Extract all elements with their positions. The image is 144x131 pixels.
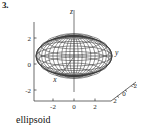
figure-container: 3. bbox=[0, 0, 144, 131]
y-axis-label: y bbox=[114, 48, 119, 57]
y-tick-label-0: 0 bbox=[122, 90, 126, 98]
three-dimensional-plot: z y x 2 0 -2 -2 0 2 2 0 -2 bbox=[0, 8, 144, 112]
z-tick-label-minus-2: -2 bbox=[25, 87, 31, 95]
z-tick-label-2: 2 bbox=[28, 35, 32, 43]
z-axis-label: z bbox=[69, 8, 73, 16]
y-tick-2 bbox=[117, 96, 119, 98]
y-tick-label-2: 2 bbox=[113, 97, 117, 105]
z-tick-label-0: 0 bbox=[28, 61, 32, 69]
plot-area: z y x 2 0 -2 -2 0 2 2 0 -2 bbox=[0, 8, 144, 112]
x-tick-label-0: 0 bbox=[72, 103, 76, 111]
x-tick-label-2: 2 bbox=[93, 103, 97, 111]
y-tick-label-minus-2: -2 bbox=[131, 82, 137, 90]
x-tick-label-minus-2: -2 bbox=[50, 103, 56, 111]
x-axis-label: x bbox=[52, 75, 57, 84]
figure-caption: ellipsoid bbox=[16, 114, 50, 126]
